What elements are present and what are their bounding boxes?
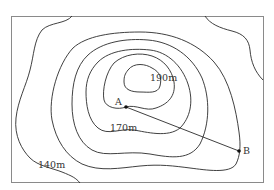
- point-b-label: B: [243, 145, 250, 156]
- point-b-marker: [237, 149, 241, 153]
- contour-140m-left: [16, 16, 80, 183]
- contour-170m: [86, 49, 191, 133]
- contour-160m: [72, 40, 208, 157]
- point-a-marker: [124, 105, 128, 109]
- contour-label-170m: 170m: [110, 122, 137, 133]
- contour-150m: [51, 32, 240, 171]
- topographic-map: A B 190m 170m 140m: [0, 0, 274, 190]
- contour-140m-right: [205, 16, 263, 80]
- contour-label-190m: 190m: [150, 72, 177, 83]
- profile-line-a-b: [126, 107, 239, 151]
- contour-label-140m: 140m: [38, 159, 65, 170]
- map-frame: [12, 17, 264, 183]
- point-a-label: A: [114, 96, 122, 107]
